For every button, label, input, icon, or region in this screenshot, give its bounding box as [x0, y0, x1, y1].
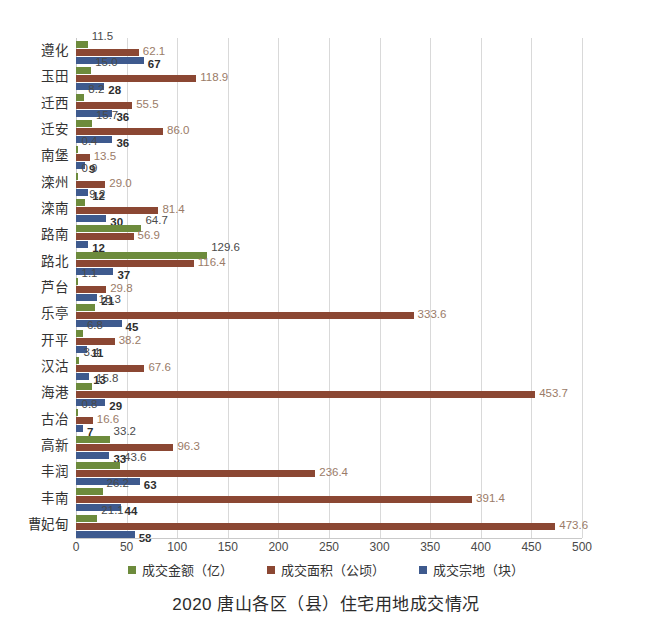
y-axis-label: 迁西	[0, 97, 68, 111]
table-row: 8.255.536	[76, 92, 582, 118]
x-tick-label: 100	[167, 541, 187, 553]
table-row: 64.756.912	[76, 223, 582, 249]
bar-value-label: 8.2	[88, 84, 104, 96]
bar-s-plots	[76, 531, 135, 538]
bar-s-plots	[76, 241, 88, 248]
bar-s-plots	[76, 373, 89, 380]
bar-s-amount	[76, 278, 78, 285]
table-row: 21.1473.658	[76, 513, 582, 539]
bar-value-label: 11.5	[92, 31, 114, 43]
legend-item[interactable]: 成交宗地（块）	[419, 560, 524, 579]
x-tick-label: 300	[370, 541, 390, 553]
bar-value-label: 3.4	[83, 347, 99, 359]
table-row: 33.296.333	[76, 434, 582, 460]
bar-rows: 11.562.16715.0118.9288.255.53615.786.036…	[76, 38, 582, 538]
bar-s-area	[76, 207, 158, 214]
y-axis-label: 汉沽	[0, 360, 68, 374]
gridline	[582, 38, 583, 538]
table-row: 15.0118.928	[76, 65, 582, 91]
bar-value-label: 0.8	[82, 399, 98, 411]
y-axis-label: 曹妃甸	[0, 518, 68, 532]
legend-label: 成交金额（亿）	[142, 560, 233, 579]
y-axis-label: 南堡	[0, 149, 68, 163]
table-row: 18.3333.645	[76, 302, 582, 328]
x-tick-label: 150	[218, 541, 238, 553]
bar-value-label: 1.1	[82, 268, 98, 280]
legend-swatch-icon	[419, 566, 427, 574]
bar-s-amount	[76, 409, 78, 416]
bar-s-area	[76, 128, 163, 135]
bar-s-amount	[76, 173, 78, 180]
bar-value-label: 86.0	[167, 125, 189, 137]
y-axis-label: 芦台	[0, 281, 68, 295]
bar-s-amount	[76, 488, 103, 495]
y-axis-label: 丰南	[0, 492, 68, 506]
y-axis-label: 丰润	[0, 465, 68, 479]
bar-s-area	[76, 154, 90, 161]
bar-value-label: 9.2	[89, 189, 105, 201]
bar-s-area	[76, 391, 535, 398]
table-row: 1.129.821	[76, 276, 582, 302]
bar-s-amount	[76, 436, 110, 443]
bar-s-amount	[76, 94, 84, 101]
bar-s-area	[76, 365, 144, 372]
bar-value-label: 67.6	[148, 362, 170, 374]
bar-s-amount	[76, 120, 92, 127]
bar-s-amount	[76, 330, 83, 337]
x-axis-tick-labels: 050100150200250300350400450500	[76, 541, 582, 559]
bar-value-label: 6.8	[87, 320, 103, 332]
bar-value-label: 116.4	[198, 257, 226, 269]
x-tick-label: 250	[319, 541, 339, 553]
bar-s-area	[76, 75, 196, 82]
y-axis-label: 滦州	[0, 176, 68, 190]
bar-value-label: 0.9	[82, 163, 98, 175]
bar-value-label: 15.8	[96, 373, 118, 385]
bar-value-label: 236.4	[319, 467, 348, 479]
y-axis-label: 路北	[0, 255, 68, 269]
y-axis-label: 古冶	[0, 413, 68, 427]
bar-s-amount	[76, 225, 141, 232]
bar-s-area	[76, 496, 472, 503]
bar-s-plots	[76, 294, 97, 301]
bar-value-label: 33.2	[114, 426, 136, 438]
bar-s-plots	[76, 452, 109, 459]
legend-item[interactable]: 成交面积（公顷）	[267, 560, 385, 579]
bar-s-plots	[76, 215, 106, 222]
bar-value-label: 0.4	[82, 136, 98, 148]
bar-value-label: 18.3	[99, 294, 121, 306]
table-row: 0.929.012	[76, 171, 582, 197]
table-row: 3.467.613	[76, 355, 582, 381]
bar-s-area	[76, 233, 134, 240]
bar-value-label: 43.6	[124, 452, 146, 464]
x-tick-label: 50	[120, 541, 133, 553]
table-row: 6.838.211	[76, 328, 582, 354]
bar-value-label: 333.6	[418, 309, 447, 321]
legend-label: 成交宗地（块）	[433, 560, 524, 579]
legend-swatch-icon	[128, 566, 136, 574]
table-row: 26.2391.444	[76, 486, 582, 512]
y-axis-label: 玉田	[0, 70, 68, 84]
legend-swatch-icon	[267, 566, 275, 574]
y-axis-label: 遵化	[0, 44, 68, 58]
bar-value-label: 55.5	[136, 99, 158, 111]
bar-s-amount	[76, 41, 88, 48]
bar-s-area	[76, 260, 194, 267]
y-axis-label: 开平	[0, 334, 68, 348]
bar-value-label: 56.9	[138, 230, 160, 242]
bar-value-label: 473.6	[559, 520, 588, 532]
table-row: 15.786.036	[76, 118, 582, 144]
bar-s-area	[76, 102, 132, 109]
y-axis-category-labels: 遵化玉田迁西迁安南堡滦州滦南路南路北芦台乐亭开平汉沽海港古冶高新丰润丰南曹妃甸	[0, 38, 72, 538]
bar-s-area	[76, 181, 105, 188]
bar-value-label: 391.4	[476, 493, 505, 505]
bar-s-amount	[76, 462, 120, 469]
bar-s-amount	[76, 304, 95, 311]
plot-area: 11.562.16715.0118.9288.255.53615.786.036…	[76, 38, 582, 538]
bar-s-area	[76, 338, 115, 345]
bar-s-amount	[76, 383, 92, 390]
legend-item[interactable]: 成交金额（亿）	[128, 560, 233, 579]
x-tick-label: 350	[420, 541, 440, 553]
y-axis-label: 路南	[0, 228, 68, 242]
table-row: 43.6236.463	[76, 460, 582, 486]
bar-value-label: 15.0	[95, 57, 117, 69]
